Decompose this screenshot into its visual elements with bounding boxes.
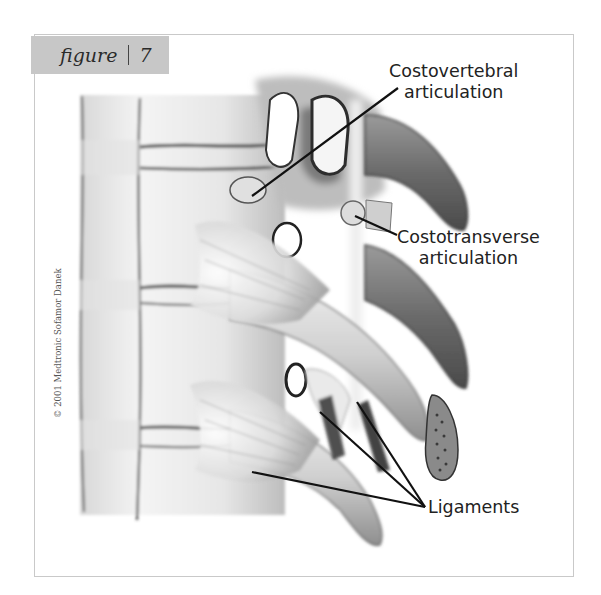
callout-ligaments-line1: Ligaments [428,497,519,518]
rib-cross-section [426,395,458,480]
callout-costovertebral-line1: Costovertebral [389,61,518,82]
callout-costotransverse: Costotransverse articulation [397,227,540,269]
callout-costotransverse-line1: Costotransverse [397,227,540,248]
callout-costotransverse-line2: articulation [397,248,540,269]
copyright-notice: © 2001 Medtronic Sofamor Danek [53,258,63,418]
callout-costovertebral-line2: articulation [389,82,518,103]
callout-ligaments: Ligaments [428,497,519,518]
callout-costovertebral: Costovertebral articulation [389,61,518,103]
